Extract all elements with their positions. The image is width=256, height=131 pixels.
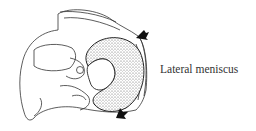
lateral-meniscus-label: Lateral meniscus [160,63,238,75]
tibial-spine [77,67,84,74]
arrow-top-icon [136,30,149,40]
knee-diagram [0,0,160,131]
lateral-meniscus [77,38,144,112]
